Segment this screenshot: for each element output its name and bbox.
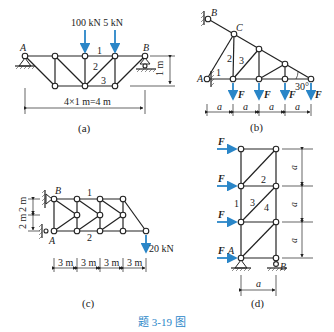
node-label-A-b: A — [196, 73, 204, 84]
svg-text:a: a — [243, 101, 248, 112]
svg-text:F: F — [237, 89, 245, 100]
pin-support-icon — [19, 58, 31, 66]
svg-text:F: F — [217, 245, 225, 256]
node-label-A: A — [19, 42, 27, 53]
panel-c-label: (c) — [82, 297, 95, 310]
member-label-c2: 2 — [87, 232, 92, 243]
angle-label: 30° — [295, 81, 309, 92]
member-label-d3: 3 — [250, 197, 255, 208]
svg-text:3 m: 3 m — [127, 257, 143, 268]
load-label-c: 20 kN — [149, 243, 174, 254]
svg-text:F: F — [217, 136, 225, 147]
node-label-B-b: B — [211, 7, 217, 18]
svg-text:a: a — [217, 101, 222, 112]
height-dim-a: 1 m — [154, 61, 165, 77]
member-label-b2: 2 — [227, 53, 232, 64]
svg-text:a: a — [288, 165, 299, 170]
svg-text:a: a — [288, 238, 299, 243]
svg-text:3 m: 3 m — [58, 257, 74, 268]
node-label-A-d: A — [227, 245, 235, 256]
truss-figure: 100 kN 5 kN A B 1 2 3 1 m 4×1 m=4 m (a) — [0, 0, 334, 332]
svg-text:2 m: 2 m — [17, 197, 28, 213]
pin-support-icon — [235, 260, 247, 268]
svg-text:3 m: 3 m — [81, 257, 97, 268]
svg-text:a: a — [269, 101, 274, 112]
member-label-b3: 3 — [239, 55, 244, 66]
width-dim-d: a — [256, 278, 261, 289]
member-label-b1: 1 — [216, 67, 221, 78]
svg-text:F: F — [263, 89, 271, 100]
load-label-a: 100 kN 5 kN — [71, 17, 123, 28]
node-label-B-d: B — [280, 261, 286, 272]
svg-text:3 m: 3 m — [104, 257, 120, 268]
node-label-C: C — [236, 22, 243, 33]
span-dim-a: 4×1 m=4 m — [64, 96, 111, 107]
panel-b-label: (b) — [250, 121, 263, 134]
svg-text:2 m: 2 m — [17, 214, 28, 230]
member-label-d2: 2 — [261, 174, 266, 185]
figure-caption: 题 3-19 图 — [138, 316, 186, 328]
svg-text:a: a — [288, 202, 299, 207]
member-label-3: 3 — [101, 75, 106, 86]
member-label-2: 2 — [93, 61, 98, 72]
node-label-B: B — [143, 42, 149, 53]
svg-text:F: F — [288, 89, 296, 100]
member-label-d4: 4 — [264, 202, 269, 213]
node-label-A-c: A — [48, 235, 56, 246]
roller-support-icon — [274, 262, 279, 267]
svg-text:F: F — [217, 173, 225, 184]
panel-d-label: (d) — [251, 297, 264, 310]
panel-a-label: (a) — [78, 122, 91, 135]
svg-text:F: F — [314, 89, 322, 100]
svg-text:a: a — [295, 101, 300, 112]
svg-text:F: F — [217, 209, 225, 220]
member-label-1: 1 — [97, 45, 102, 56]
node-label-B-c: B — [55, 185, 61, 196]
member-label-d1: 1 — [234, 198, 239, 209]
member-label-c1: 1 — [87, 187, 92, 198]
